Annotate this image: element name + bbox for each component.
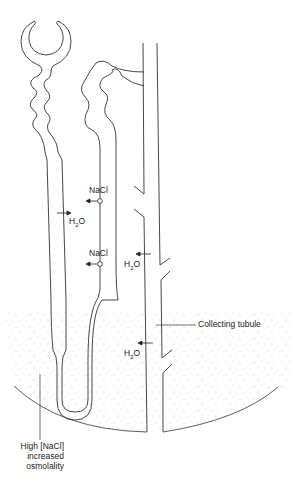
h2o-label-collecting-mid: H2O bbox=[124, 260, 140, 271]
medulla-label-line1: High [NaCl] bbox=[12, 441, 64, 451]
collecting-tubule-label: Collecting tubule bbox=[198, 320, 261, 329]
h2o-label-collecting-lower: H2O bbox=[124, 349, 140, 360]
nacl-label-lower: NaCl bbox=[89, 249, 108, 258]
nephron-drawing bbox=[0, 0, 294, 484]
medulla-label-line3: osmolality bbox=[12, 461, 64, 471]
nacl-label-upper: NaCl bbox=[89, 186, 108, 195]
bowmans-capsule bbox=[21, 21, 71, 72]
nephron-diagram: NaCl H2O NaCl H2O H2O Collecting tubule … bbox=[0, 0, 294, 484]
h2o-label-descending: H2O bbox=[69, 217, 85, 228]
medulla-label-line2: increased bbox=[12, 451, 64, 461]
medulla-label: High [NaCl] increased osmolality bbox=[12, 441, 64, 471]
